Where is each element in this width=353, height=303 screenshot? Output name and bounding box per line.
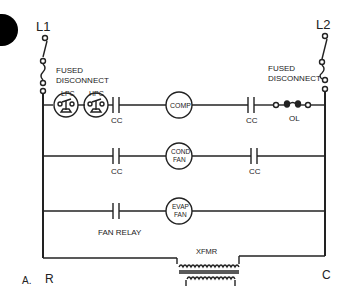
cc2-label: CC [246,116,258,125]
xfmr-label: XFMR [196,247,218,256]
condfan-label-2: FAN [173,156,186,163]
fan-relay-label: FAN RELAY [98,228,142,237]
line-l2-label: L2 [316,17,330,32]
figure-label: A. [22,275,31,286]
left-disconnect-label-1: FUSED [56,66,83,75]
line-l1-label: L1 [36,19,50,34]
ol-label: OL [289,114,300,123]
terminal-r-label: R [45,272,54,286]
cc4-label: CC [249,167,261,176]
hpc-label: HPC [89,90,104,97]
cc3-label: CC [111,167,123,176]
right-disconnect-label-1: FUSED [268,64,295,73]
evapfan-label-2: FAN [174,211,187,218]
comp-label: COMP [170,102,191,109]
evapfan-label-1: EVAP [172,203,189,210]
bullet-dot [0,14,18,46]
terminal-c-label: C [322,268,331,282]
right-disconnect-label-2: DISCONNECT [268,74,321,83]
ladder-diagram: L1 L2 FUSED DISCONNECT FUSED DISCONNECT … [0,0,353,303]
left-disconnect-label-2: DISCONNECT [56,76,109,85]
cc1-label: CC [111,116,123,125]
lpc-label: LPC [61,90,75,97]
condfan-label-1: COND [171,148,190,155]
